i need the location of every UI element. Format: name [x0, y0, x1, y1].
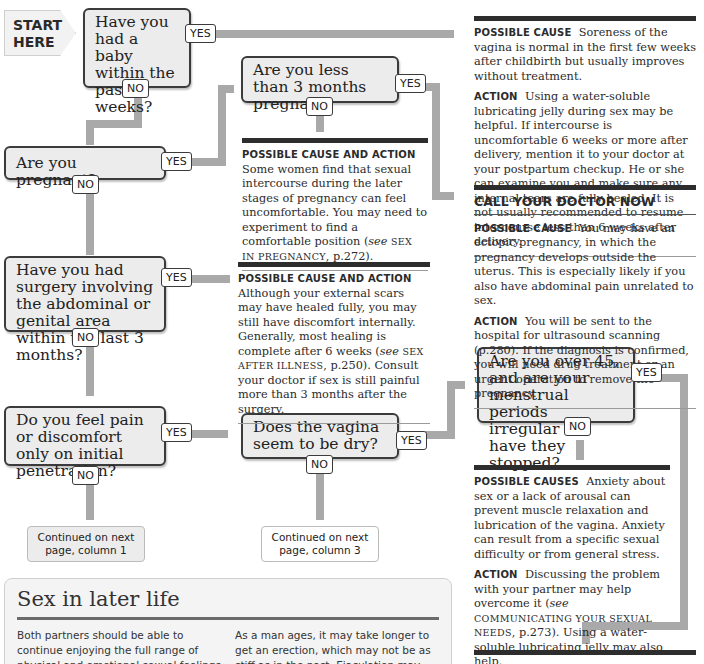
connector-baby-no-h	[86, 120, 142, 128]
start-here-badge: START HERE	[4, 10, 76, 56]
panel-column-1: Both partners should be able to continue…	[17, 628, 221, 664]
call-doctor-alert: CALL YOUR DOCTOR NOW	[474, 195, 696, 210]
yes-label-dry[interactable]: YES	[396, 431, 427, 450]
connector-dry-yes-top	[447, 381, 465, 389]
panel-column-2: As a man ages, it may take longer to get…	[235, 628, 439, 664]
connector-pregnant-yes-h	[188, 158, 226, 166]
connector-over45-no	[576, 440, 584, 460]
yes-label-less3[interactable]: YES	[395, 74, 426, 93]
continued-column-3[interactable]: Continued on next page, column 3	[261, 526, 379, 562]
divider	[474, 214, 696, 215]
question-surgery[interactable]: Have you had surgery involving the abdom…	[4, 256, 166, 332]
heading-bar	[242, 138, 428, 143]
yes-label-over45[interactable]: YES	[631, 363, 662, 382]
no-label-less3[interactable]: NO	[306, 97, 333, 116]
connector-less3-yes-v	[432, 83, 440, 199]
connector-pregnant-no	[86, 185, 94, 255]
answer-anxiety: Possible causes Anxiety about sex or a l…	[474, 465, 670, 664]
connector-baby-no-v2	[86, 120, 94, 145]
connector-dry-yes-v	[447, 381, 455, 439]
question-pain-initial[interactable]: Do you feel pain or discomfort only on i…	[4, 406, 166, 466]
heading-bar	[474, 650, 696, 655]
continued-column-1[interactable]: Continued on next page, column 1	[27, 526, 145, 562]
connector-surgery-yes	[188, 275, 230, 283]
heading-bar	[238, 262, 430, 267]
yes-label-pregnant[interactable]: YES	[161, 152, 192, 171]
panel-divider	[17, 617, 439, 620]
no-label-pregnant[interactable]: NO	[72, 175, 99, 194]
connector-pain-yes	[188, 430, 228, 438]
panel-title: Sex in later life	[17, 587, 439, 611]
answer-late-pregnancy: Possible cause and action Some women fin…	[242, 138, 428, 271]
start-label: START	[13, 17, 75, 34]
question-less-than-3-months[interactable]: Are you less than 3 months pregnant?	[241, 56, 399, 103]
connector-pregnant-yes-v	[218, 85, 226, 165]
yes-label-surgery[interactable]: YES	[161, 268, 192, 287]
here-label: HERE	[13, 34, 75, 51]
connector-less3-yes-h2	[432, 192, 454, 200]
connector-baby-yes	[200, 30, 454, 38]
possible-cause-label: Possible cause	[474, 223, 572, 234]
answer-next-truncated	[474, 650, 696, 660]
action-label: Action	[474, 316, 518, 327]
heading-bar	[474, 465, 670, 470]
no-label-surgery[interactable]: NO	[72, 328, 99, 347]
heading-bar	[474, 16, 696, 21]
connector-pregnant-yes-top	[218, 85, 234, 93]
no-label-over45[interactable]: NO	[564, 417, 591, 436]
yes-label-baby[interactable]: YES	[185, 24, 216, 43]
question-baby[interactable]: Have you had a baby within the past 6 we…	[83, 8, 191, 88]
yes-label-pain[interactable]: YES	[161, 423, 192, 442]
no-label-pain[interactable]: NO	[72, 466, 99, 485]
possible-causes-label: Possible causes	[474, 476, 579, 487]
sex-in-later-life-panel: Sex in later life Both partners should b…	[4, 578, 452, 664]
possible-cause-label: Possible cause	[474, 27, 572, 38]
answer-surgery: Possible cause and action Although your …	[238, 262, 430, 424]
connector-dry-yes	[425, 431, 447, 439]
divider	[238, 423, 430, 424]
answer-ectopic: CALL YOUR DOCTOR NOW Possible cause You …	[474, 185, 696, 409]
action-label: Action	[474, 569, 518, 580]
no-label-baby[interactable]: NO	[122, 79, 149, 98]
connector-over45-yes-v	[680, 374, 688, 630]
action-label: Action	[474, 91, 518, 102]
no-label-dry[interactable]: NO	[306, 455, 333, 474]
heading-bar	[474, 185, 696, 190]
divider	[474, 408, 696, 409]
